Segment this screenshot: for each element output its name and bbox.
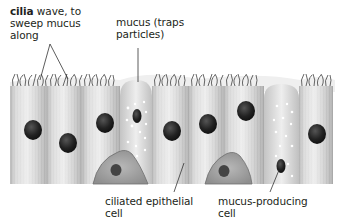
goblet-cell-label-line2: cell [218,207,308,219]
mucus-label-line2: particles) [116,28,184,40]
goblet-cell-label-line1: mucus-producing [218,195,308,207]
mucus-label: mucus (traps particles) [116,16,184,40]
cilia-label-bold: cilia [10,5,34,17]
mucus-label-line1: mucus (traps [116,16,184,28]
ciliated-cell-label-line1: ciliated epithelial [105,195,193,207]
cilia-label-line1: wave, to [34,5,81,17]
cilia-label-line2: sweep mucus [10,17,81,29]
cilia-label-line3: along [10,29,81,41]
goblet-cell-label: mucus-producing cell [218,195,308,219]
ciliated-cell-label: ciliated epithelial cell [105,195,193,219]
ciliated-cell-label-line2: cell [105,207,193,219]
cilia-label: cilia wave, to sweep mucus along [10,5,81,41]
